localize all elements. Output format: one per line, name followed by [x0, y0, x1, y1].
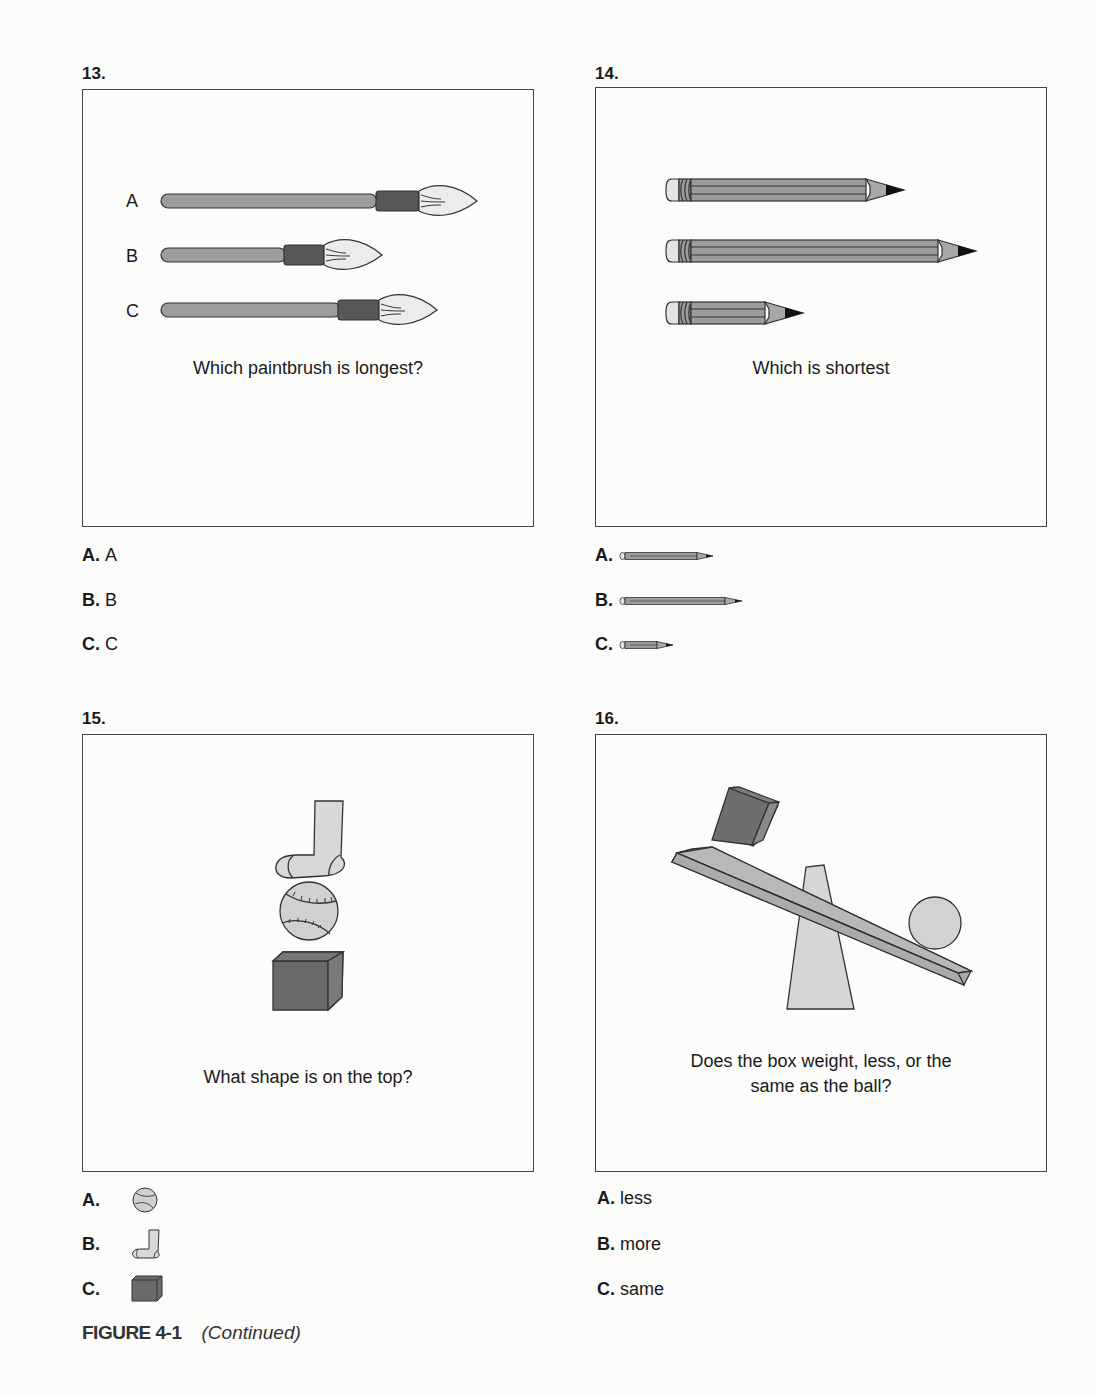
option-letter: C. — [595, 634, 613, 655]
option-letter: A. — [82, 545, 100, 566]
question-14-prompt: Which is shortest — [596, 356, 1046, 381]
option-letter: B. — [82, 1234, 126, 1255]
cube-icon — [273, 952, 343, 1010]
question-16-prompt-line-1: Does the box weight, less, or the — [596, 1049, 1046, 1074]
option-text: same — [620, 1279, 664, 1300]
question-15-option-a[interactable]: A. — [82, 1186, 159, 1214]
question-13-option-c[interactable]: C.C — [82, 634, 118, 655]
question-15-option-b[interactable]: B. — [82, 1228, 161, 1260]
pencil-medium-icon — [618, 551, 714, 561]
option-text: A — [105, 545, 117, 566]
pencil-short-icon — [666, 302, 803, 324]
question-13-number: 13. — [82, 64, 106, 84]
question-16-option-c[interactable]: C.same — [597, 1279, 664, 1300]
option-letter: C. — [82, 634, 100, 655]
question-14-number: 14. — [595, 64, 619, 84]
question-16-figure-box: Does the box weight, less, or the same a… — [595, 734, 1047, 1172]
question-15-number: 15. — [82, 709, 106, 729]
option-letter: C. — [597, 1279, 615, 1300]
stacked-objects-illustration — [83, 735, 535, 1173]
option-text: B — [105, 590, 117, 611]
pencils-illustration — [596, 88, 1048, 528]
question-13-prompt: Which paintbrush is longest? — [83, 356, 533, 381]
option-letter: A. — [595, 545, 613, 566]
seesaw-illustration — [596, 735, 1048, 1173]
option-letter: A. — [597, 1188, 615, 1209]
question-16-prompt-line-2: same as the ball? — [596, 1074, 1046, 1099]
pencil-long-icon — [618, 596, 743, 606]
option-letter: B. — [595, 590, 613, 611]
question-13-option-b[interactable]: B.B — [82, 590, 117, 611]
baseball-icon — [131, 1186, 159, 1214]
option-letter: C. — [82, 1279, 126, 1300]
option-letter: A. — [82, 1190, 126, 1211]
question-16-option-a[interactable]: A.less — [597, 1188, 652, 1209]
question-15-figure-box: What shape is on the top? — [82, 734, 534, 1172]
box-icon — [712, 787, 779, 847]
pencil-long-icon — [666, 240, 976, 262]
option-letter: B. — [82, 590, 100, 611]
question-14-option-c[interactable]: C. — [595, 634, 674, 655]
fulcrum-icon — [787, 865, 854, 1009]
option-text: less — [620, 1188, 652, 1209]
option-text: more — [620, 1234, 661, 1255]
figure-label: FIGURE 4-1 — [82, 1322, 182, 1343]
question-15-prompt: What shape is on the top? — [83, 1065, 533, 1090]
paintbrush-a-icon — [83, 90, 535, 528]
question-16-number: 16. — [595, 709, 619, 729]
sock-icon — [276, 801, 345, 878]
pencil-medium-icon — [666, 179, 904, 201]
question-13-figure-box: A B C Which paintbrush is longest? — [82, 89, 534, 527]
ball-icon — [909, 897, 961, 949]
figure-continued-note: (Continued) — [202, 1322, 301, 1343]
question-15-option-c[interactable]: C. — [82, 1275, 163, 1303]
option-letter: B. — [597, 1234, 615, 1255]
question-16-option-b[interactable]: B.more — [597, 1234, 661, 1255]
question-14-option-a[interactable]: A. — [595, 545, 714, 566]
sock-icon — [131, 1228, 161, 1260]
baseball-icon — [280, 882, 338, 940]
pencil-short-icon — [618, 640, 674, 650]
cube-icon — [131, 1275, 163, 1303]
question-13-option-a[interactable]: A.A — [82, 545, 117, 566]
question-14-option-b[interactable]: B. — [595, 590, 743, 611]
option-text: C — [105, 634, 118, 655]
question-14-figure-box: Which is shortest — [595, 87, 1047, 527]
figure-caption: FIGURE 4-1(Continued) — [82, 1322, 301, 1344]
